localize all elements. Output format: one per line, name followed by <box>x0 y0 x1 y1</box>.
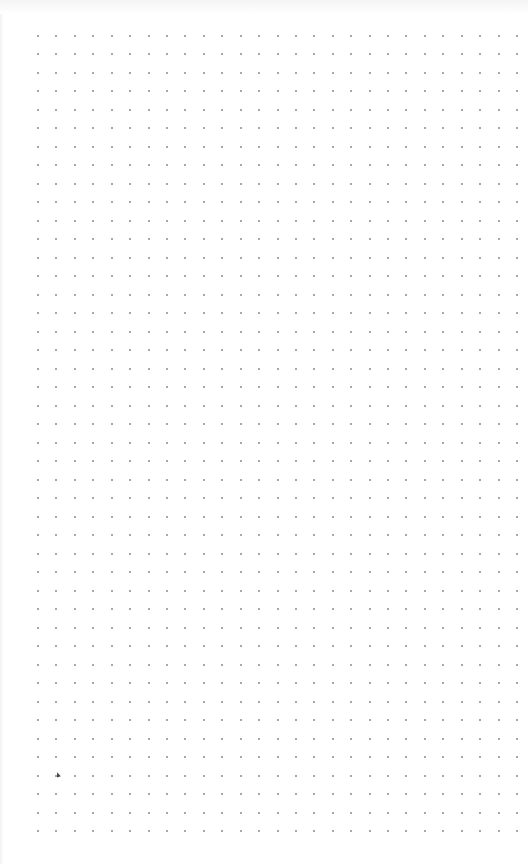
grid-dot <box>295 201 297 203</box>
grid-dot <box>148 331 150 333</box>
grid-dot <box>111 701 113 703</box>
grid-dot <box>387 386 389 388</box>
grid-dot <box>240 460 242 462</box>
grid-dot <box>129 664 131 666</box>
grid-dot <box>424 127 426 129</box>
grid-dot <box>313 460 315 462</box>
grid-dot <box>350 405 352 407</box>
grid-dot <box>129 331 131 333</box>
grid-dot <box>148 201 150 203</box>
grid-dot <box>240 183 242 185</box>
grid-dot <box>350 719 352 721</box>
grid-dot <box>74 682 76 684</box>
grid-dot <box>479 386 481 388</box>
grid-dot <box>424 553 426 555</box>
grid-dot <box>424 460 426 462</box>
grid-dot <box>498 738 500 740</box>
dot-grid-canvas[interactable] <box>0 0 528 864</box>
grid-dot <box>405 386 407 388</box>
grid-dot <box>221 349 223 351</box>
grid-dot <box>369 72 371 74</box>
grid-dot <box>332 164 334 166</box>
grid-dot <box>424 109 426 111</box>
grid-dot <box>442 183 444 185</box>
grid-dot <box>111 460 113 462</box>
grid-dot <box>295 164 297 166</box>
grid-dot <box>369 627 371 629</box>
grid-dot <box>258 349 260 351</box>
grid-dot <box>92 35 94 37</box>
grid-dot <box>92 664 94 666</box>
grid-dot <box>258 368 260 370</box>
grid-dot <box>148 627 150 629</box>
grid-dot <box>221 664 223 666</box>
grid-dot <box>129 738 131 740</box>
grid-dot <box>277 682 279 684</box>
grid-dot <box>203 405 205 407</box>
grid-dot <box>424 294 426 296</box>
grid-dot <box>148 756 150 758</box>
grid-dot <box>258 257 260 259</box>
grid-dot <box>498 405 500 407</box>
grid-dot <box>129 719 131 721</box>
grid-dot <box>111 830 113 832</box>
grid-dot <box>55 830 57 832</box>
grid-dot <box>350 738 352 740</box>
grid-dot <box>111 201 113 203</box>
grid-dot <box>442 312 444 314</box>
grid-dot <box>498 682 500 684</box>
grid-dot <box>516 460 518 462</box>
grid-dot <box>166 183 168 185</box>
grid-dot <box>498 312 500 314</box>
grid-dot <box>369 479 371 481</box>
grid-dot <box>332 479 334 481</box>
grid-dot <box>442 220 444 222</box>
grid-dot <box>166 590 168 592</box>
grid-dot <box>350 275 352 277</box>
grid-dot <box>295 682 297 684</box>
grid-dot <box>295 664 297 666</box>
grid-dot <box>479 331 481 333</box>
grid-dot <box>369 183 371 185</box>
grid-dot <box>74 719 76 721</box>
grid-dot <box>258 312 260 314</box>
grid-dot <box>74 645 76 647</box>
grid-dot <box>37 775 39 777</box>
grid-dot <box>55 571 57 573</box>
grid-dot <box>166 793 168 795</box>
grid-dot <box>350 701 352 703</box>
grid-dot <box>479 775 481 777</box>
grid-dot <box>221 72 223 74</box>
grid-dot <box>516 479 518 481</box>
grid-dot <box>516 164 518 166</box>
grid-dot <box>350 497 352 499</box>
grid-dot <box>203 386 205 388</box>
grid-dot <box>129 294 131 296</box>
grid-dot <box>350 368 352 370</box>
grid-dot <box>184 238 186 240</box>
grid-dot <box>111 442 113 444</box>
grid-dot <box>461 516 463 518</box>
grid-dot <box>184 201 186 203</box>
grid-dot <box>498 127 500 129</box>
grid-dot <box>277 405 279 407</box>
grid-dot <box>240 220 242 222</box>
grid-dot <box>479 516 481 518</box>
grid-dot <box>258 775 260 777</box>
grid-dot <box>92 793 94 795</box>
grid-dot <box>313 127 315 129</box>
grid-dot <box>313 738 315 740</box>
grid-dot <box>221 386 223 388</box>
grid-dot <box>369 257 371 259</box>
grid-dot <box>313 830 315 832</box>
grid-dot <box>55 664 57 666</box>
grid-dot <box>55 312 57 314</box>
grid-dot <box>129 275 131 277</box>
grid-dot <box>258 294 260 296</box>
grid-dot <box>92 349 94 351</box>
grid-dot <box>461 682 463 684</box>
grid-dot <box>405 238 407 240</box>
grid-dot <box>148 275 150 277</box>
grid-dot <box>129 793 131 795</box>
grid-dot <box>516 238 518 240</box>
